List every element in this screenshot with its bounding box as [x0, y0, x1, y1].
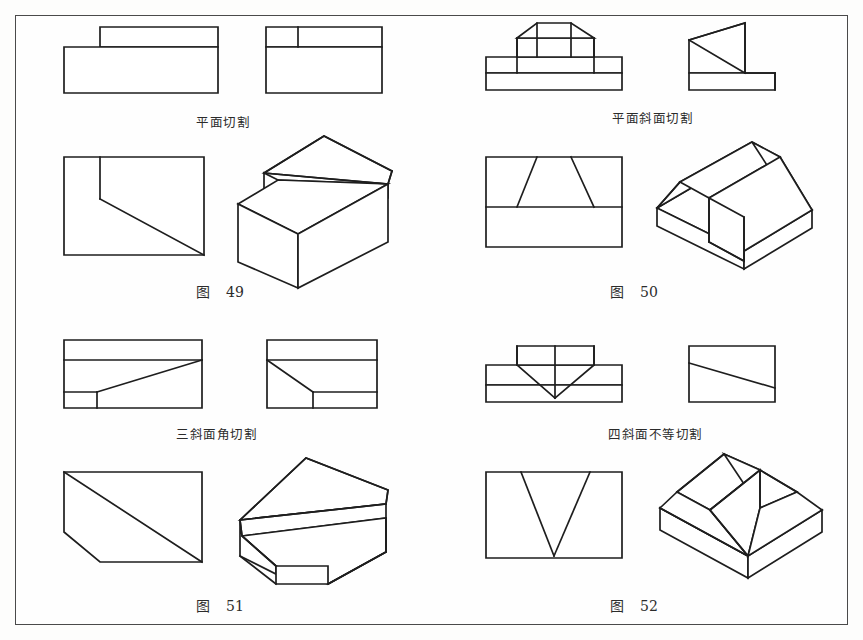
fig52-caption: 四斜面不等切割: [608, 424, 703, 443]
fig51-isometric-view: [228, 444, 423, 609]
figure-50-group: 平面斜面切割: [432, 0, 863, 320]
fig49-front-view: [62, 25, 222, 97]
figure-49-group: 平面切割 图49: [0, 0, 432, 320]
fig52-top-view: [484, 470, 624, 566]
fig49-top-view: [62, 155, 208, 260]
fig51-front-view: [62, 338, 210, 414]
fig49-label: 图49: [196, 281, 244, 301]
fig52-front-view: [484, 332, 624, 410]
fig50-caption: 平面斜面切割: [612, 108, 693, 127]
fig50-label: 图50: [610, 281, 658, 301]
fig49-label-number: 49: [226, 284, 244, 300]
fig50-side-view: [687, 20, 781, 93]
fig49-isometric-view: [228, 124, 418, 290]
fig50-label-number: 50: [640, 284, 658, 300]
fig50-front-view: [484, 20, 624, 93]
fig52-isometric-view: [652, 442, 852, 607]
fig51-top-view: [62, 470, 210, 574]
fig52-side-view: [687, 332, 781, 410]
fig52-label-prefix: 图: [610, 598, 624, 614]
page-root: 平面切割 图49: [0, 0, 863, 640]
fig51-caption: 三斜面角切割: [176, 424, 257, 443]
figure-51-group: 三斜面角切割 图51: [0, 320, 432, 640]
figure-52-group: 四斜面不等切割: [432, 320, 863, 640]
fig50-isometric-view: [652, 130, 847, 285]
fig51-label-prefix: 图: [196, 598, 210, 614]
fig52-label-number: 52: [640, 598, 658, 614]
fig49-side-view: [264, 25, 386, 97]
fig51-label: 图51: [196, 595, 244, 615]
fig52-label: 图52: [610, 595, 658, 615]
fig49-label-prefix: 图: [196, 284, 210, 300]
fig51-label-number: 51: [226, 598, 244, 614]
fig50-label-prefix: 图: [610, 284, 624, 300]
fig51-side-view: [265, 338, 385, 414]
fig50-top-view: [484, 155, 624, 251]
